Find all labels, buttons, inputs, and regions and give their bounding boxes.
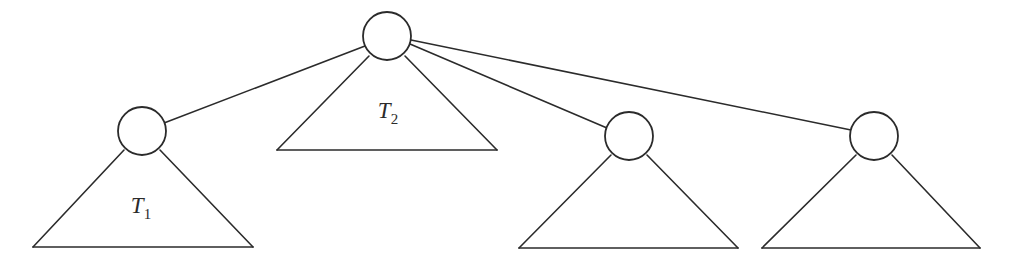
triangle-4-right-side	[892, 155, 980, 248]
edge-group	[164, 40, 851, 130]
subtree-label-1: T1	[131, 193, 151, 222]
child-node-4[interactable]	[850, 112, 898, 160]
tree-diagram-canvas: T1 T2	[0, 0, 1012, 259]
triangle-2-left-side	[277, 56, 369, 150]
subtree-label-2: T2	[378, 98, 398, 127]
child-node-3[interactable]	[605, 112, 653, 160]
triangle-3-right-side	[647, 155, 738, 248]
subtree-triangle-4	[762, 155, 980, 248]
root-node[interactable]	[363, 12, 411, 60]
tree-diagram-svg: T1 T2	[0, 0, 1012, 259]
triangle-3-left-side	[519, 155, 611, 248]
triangle-4-left-side	[762, 155, 856, 248]
subtree-triangle-3	[519, 155, 738, 248]
edge-root-to-child3	[410, 44, 607, 128]
edge-root-to-child1	[164, 46, 365, 123]
triangle-1-right-side	[160, 150, 253, 247]
child-node-1[interactable]	[118, 107, 166, 155]
label-group: T1 T2	[131, 98, 398, 222]
subtree-label-2-subscript: 2	[391, 111, 399, 127]
triangle-1-left-side	[33, 150, 124, 247]
subtree-label-1-subscript: 1	[144, 206, 152, 222]
triangle-2-right-side	[405, 56, 497, 150]
